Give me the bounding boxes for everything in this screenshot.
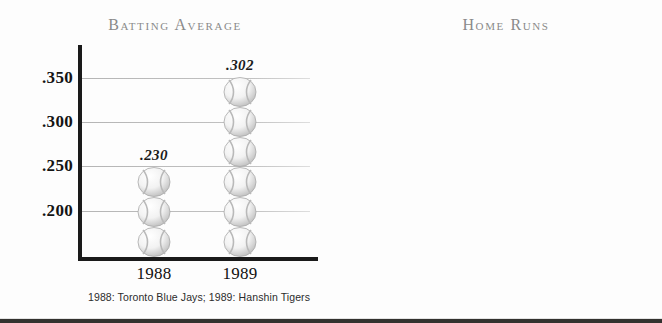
baseball-icon xyxy=(134,167,174,197)
baseball-icon xyxy=(220,167,260,197)
baseball-icon xyxy=(134,197,174,227)
plot-area-batting-average: .350 .300 .250 .200 .230 xyxy=(78,45,310,261)
bottom-rule-shadow xyxy=(0,319,662,323)
baseball-icon xyxy=(220,197,260,227)
baseball-icon xyxy=(134,227,174,257)
gridline: .350 xyxy=(82,78,310,79)
y-tick-label: .250 xyxy=(38,156,74,176)
baseball-icon xyxy=(220,227,260,257)
baseball-stack xyxy=(220,77,260,257)
y-tick-label: .200 xyxy=(38,201,74,221)
gridline: .250 xyxy=(82,166,310,167)
gridline: .200 xyxy=(82,211,310,212)
chart-home-runs: Home Runs 40 30 20 10 9 xyxy=(350,0,662,300)
x-tick-label-1988: 1988 xyxy=(136,264,171,284)
baseball-stack xyxy=(134,167,174,257)
bar-column-1989[interactable]: .302 1989 xyxy=(220,77,260,257)
chart-title-batting-average: Batting Average xyxy=(0,16,360,34)
baseball-icon xyxy=(220,107,260,137)
figure-caption: 1988: Toronto Blue Jays; 1989: Hanshin T… xyxy=(88,291,310,303)
bar-column-1988[interactable]: .230 1988 xyxy=(134,167,174,257)
chart-batting-average: Batting Average .350 .300 .250 .200 .230 xyxy=(0,0,350,300)
figure-page: Batting Average .350 .300 .250 .200 .230 xyxy=(0,0,662,323)
baseball-icon xyxy=(220,77,260,107)
x-tick-label-1989: 1989 xyxy=(222,264,257,284)
gridline: .300 xyxy=(82,122,310,123)
bar-value-label: .302 xyxy=(226,57,254,74)
x-axis-line xyxy=(78,257,318,261)
y-tick-label: .300 xyxy=(38,112,74,132)
bar-value-label: .230 xyxy=(140,147,168,164)
y-tick-label: .350 xyxy=(38,68,74,88)
chart-title-home-runs: Home Runs xyxy=(350,16,662,34)
baseball-icon xyxy=(220,137,260,167)
